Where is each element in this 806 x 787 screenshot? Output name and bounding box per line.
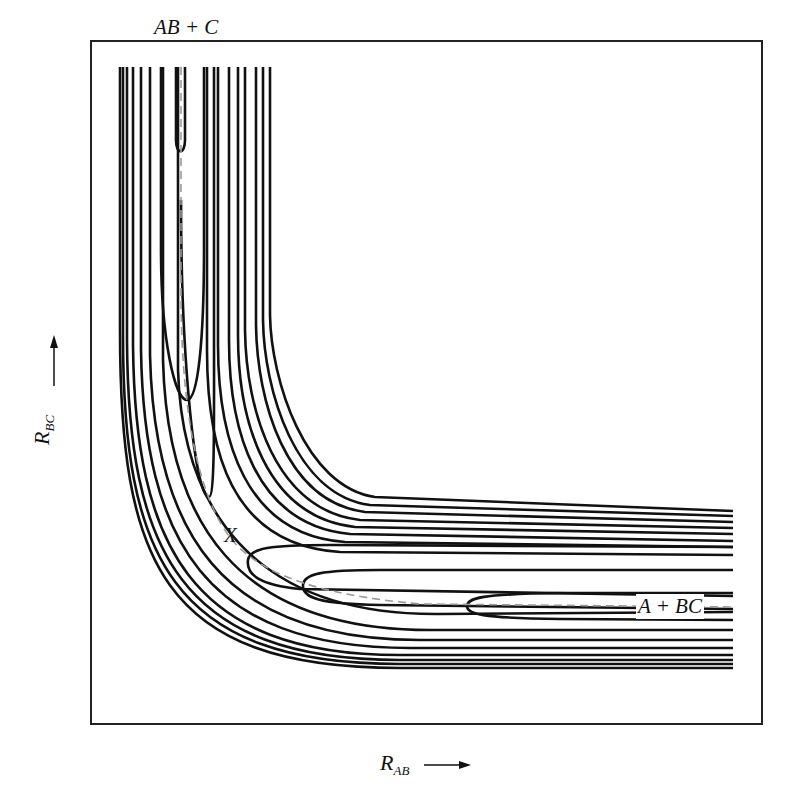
- saddle-point-label: X: [224, 523, 237, 548]
- x-axis-symbol: R: [380, 750, 393, 775]
- outer-wall-contours: [120, 67, 733, 668]
- y-axis-symbol: R: [29, 432, 54, 445]
- contour-lines: [120, 67, 733, 668]
- product-valley-label: A + BC: [636, 594, 704, 619]
- y-axis-label: RBC: [29, 415, 55, 445]
- saddle-upper-loop: [196, 67, 215, 497]
- potential-energy-surface-diagram: [0, 0, 806, 787]
- x-axis-arrow: [424, 761, 471, 769]
- plot-frame: [91, 41, 762, 724]
- reactant-valley-label: AB + C: [154, 15, 218, 40]
- y-axis-subscript: BC: [42, 415, 57, 432]
- x-axis-label: RAB: [380, 750, 409, 776]
- y-axis-arrow: [50, 335, 58, 386]
- x-axis-subscript: AB: [393, 763, 409, 778]
- inner-wall-contours: [207, 67, 733, 555]
- ab-valley-outer-loop: [161, 67, 204, 400]
